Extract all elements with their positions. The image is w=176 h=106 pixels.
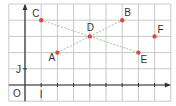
- segment-DE: [90, 36, 139, 52]
- y-unit-label: J: [16, 64, 21, 75]
- point-label-C: C: [32, 8, 39, 19]
- point-label-E: E: [140, 54, 147, 65]
- x-unit-label: I: [40, 89, 43, 100]
- origin-label: O: [13, 88, 21, 99]
- point-F: [152, 34, 156, 38]
- coordinate-grid-diagram: ABCDEF O I J: [0, 0, 176, 106]
- x-axis-arrow-icon: [165, 83, 171, 88]
- point-label-D: D: [87, 22, 94, 33]
- point-C: [39, 18, 43, 22]
- point-D: [88, 34, 92, 38]
- point-B: [120, 18, 124, 22]
- point-A: [55, 50, 59, 54]
- point-label-A: A: [48, 52, 55, 63]
- point-label-F: F: [158, 24, 164, 35]
- segment-CD: [41, 20, 90, 36]
- point-label-B: B: [124, 7, 131, 18]
- y-axis-arrow-icon: [23, 4, 28, 10]
